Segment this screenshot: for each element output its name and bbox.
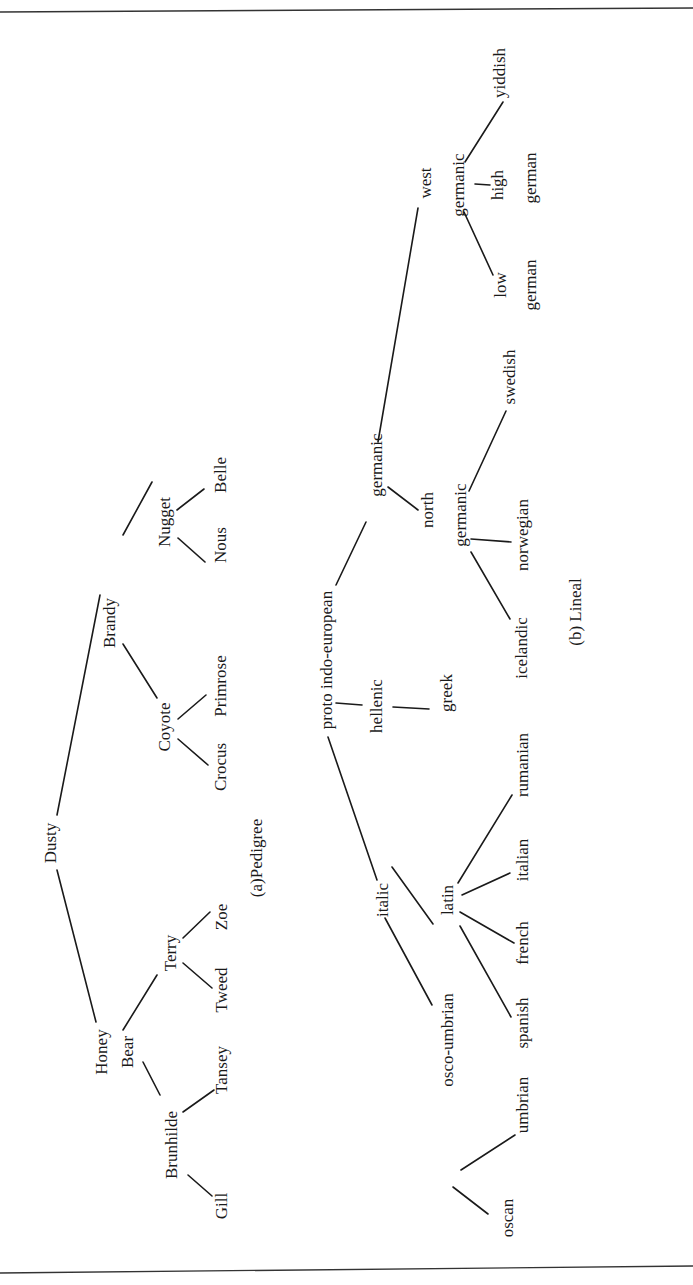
edge-proto-italic [328,737,377,880]
node-dusty: Dusty [41,822,60,863]
node-tweed: Tweed [212,967,231,1013]
edge-italic-osco-umbrian [385,918,432,1005]
top-rule [0,8,693,12]
edge-nugget-belle [177,489,204,510]
edge-north-norwegian [471,539,511,542]
node-hellenic: hellenic [367,679,386,733]
node-nugget: Nugget [155,497,174,547]
edge-brandy-coyote [123,644,157,698]
edge-germanic-north [388,487,418,510]
node-terry: Terry [161,934,180,971]
edge-coyote-primrose [178,695,206,719]
node-proto-indo-european: proto indo-european [317,590,336,729]
node-north-germanic-line1: north [418,492,437,528]
node-latin: latin [438,884,457,915]
node-germanic: germanic [367,433,386,497]
node-italian: italian [513,838,532,881]
edge-latin-french [460,912,514,943]
edge-north-swedish [469,411,506,491]
node-brandy: Brandy [100,597,119,648]
edge-west-yiddish [465,102,503,162]
node-italic: italic [373,883,392,917]
node-yiddish: yiddish [490,47,509,98]
lineal-tree: proto indo-european italic hellenic germ… [317,47,585,1237]
edge-latin-italian [462,873,510,895]
node-belle: Belle [211,457,230,493]
edge-brunhilde-tansey [183,1090,214,1112]
pedigree-tree: Dusty Honey Bear Brandy Terry Coyote Nug… [41,457,266,1219]
node-oscan: oscan [498,1198,517,1237]
node-low-german-line1: low [491,272,510,298]
node-umbrian: umbrian [513,1076,532,1133]
edge-latin-spanish [460,926,511,1017]
node-coyote: Coyote [155,702,174,751]
node-osco-umbrian: osco-umbrian [438,993,457,1087]
edge-terry-tweed [183,963,212,988]
edge-italic-latin [392,867,433,924]
caption-lineal: (b) Lineal [566,578,585,646]
edge-dusty-brandy [57,595,100,815]
node-french: french [513,921,532,965]
edge-osco-umbrian-oscan [453,1187,488,1214]
node-icelandic: icelandic [512,617,531,679]
node-north-germanic-line2: germanic [451,483,470,547]
edge-honeybear-brunhilde [143,1062,160,1095]
caption-pedigree: (a)Pedigree [247,819,266,897]
node-crocus: Crocus [211,743,230,791]
edge-germanic-west [378,208,418,442]
node-high-german-line1: high [488,169,507,200]
node-spanish: spanish [513,997,532,1049]
node-brunhilde: Brunhilde [162,1111,181,1179]
edge-honeybear-terry [123,975,157,1030]
edge-hellenic-greek [393,707,429,709]
tree-diagrams-figure: Dusty Honey Bear Brandy Terry Coyote Nug… [0,0,693,1285]
node-high-german-line2: german [521,152,540,203]
edge-brandy-nugget [123,482,152,535]
node-honey-bear-line2: Bear [118,1036,137,1068]
bottom-rule [0,1266,693,1273]
node-swedish: swedish [500,349,519,404]
node-gill: Gill [212,1193,231,1220]
edge-coyote-crocus [178,739,208,765]
node-primrose: Primrose [211,655,230,716]
edge-north-icelandic [471,552,510,619]
node-greek: greek [437,674,456,712]
edge-osco-umbrian-umbrian [461,1135,515,1170]
node-nous: Nous [211,527,230,563]
edge-latin-rumanian [458,795,512,883]
edge-nugget-nous [178,538,205,562]
edge-brunhilde-gill [188,1175,212,1196]
node-zoe: Zoe [212,904,231,930]
node-honey-bear-line1: Honey [92,1029,111,1075]
node-rumanian: rumanian [513,732,532,797]
edge-dusty-honeybear [57,870,96,1022]
node-low-german-line2: german [521,259,540,310]
edge-terry-zoe [183,912,210,938]
node-tansey: Tansey [212,1046,231,1094]
edge-proto-hellenic [336,703,362,705]
node-west-germanic-line2: germanic [449,153,468,217]
edge-proto-germanic [336,522,366,585]
edge-west-low [464,212,493,275]
node-norwegian: norwegian [513,499,532,571]
node-west-germanic-line1: west [416,167,435,198]
